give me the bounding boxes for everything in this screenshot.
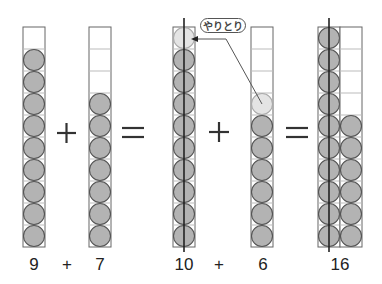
exchange-callout-label: やりとり [200,18,246,33]
number-ten: 10 [169,255,199,275]
plus-operator-2: + [209,255,229,275]
number-nine: 9 [19,255,49,275]
equals-sign-2 [286,128,308,137]
number-seven: 7 [85,255,115,275]
column-nine [23,27,45,247]
number-six: 6 [248,255,278,275]
column-sixteen [318,18,362,252]
column-seven [89,27,111,247]
column-ten [173,18,195,252]
plus-operator-1: + [57,255,77,275]
ten-frame-diagram [0,0,382,284]
number-sixteen: 16 [325,255,355,275]
plus-sign-2 [209,122,229,142]
equals-sign-1 [122,128,144,137]
plus-sign-1 [57,123,76,143]
column-six [251,27,273,247]
